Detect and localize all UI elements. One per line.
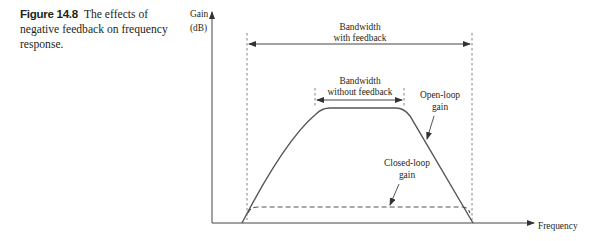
y-axis-label: Gain <box>190 9 209 19</box>
bw-with-label-1: Bandwidth <box>339 22 380 32</box>
frequency-response-diagram: Gain (dB) Frequency Bandwidth with feedb… <box>0 0 593 241</box>
closed-loop-pointer <box>390 184 399 205</box>
bw-without-label-1: Bandwidth <box>339 76 380 86</box>
open-loop-pointer <box>427 116 434 139</box>
open-loop-label-2: gain <box>432 102 448 112</box>
closed-loop-gain-curve <box>248 207 470 213</box>
x-axis-label: Frequency <box>538 221 578 231</box>
y-axis-unit: (dB) <box>190 23 207 34</box>
closed-loop-label-2: gain <box>399 170 415 180</box>
bw-without-label-2: without feedback <box>328 87 393 97</box>
open-loop-gain-curve <box>242 108 473 223</box>
open-loop-label-1: Open-loop <box>420 90 460 100</box>
closed-loop-label-1: Closed-loop <box>384 158 430 168</box>
bw-with-label-2: with feedback <box>334 33 387 43</box>
